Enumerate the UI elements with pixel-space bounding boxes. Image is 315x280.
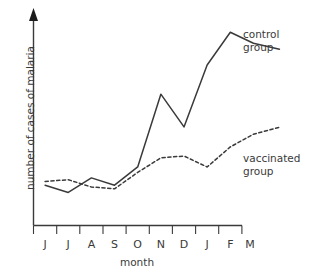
series-label-vaccinated-line1: vaccinated	[243, 152, 300, 165]
series-label-vaccinated-line2: group	[243, 165, 300, 178]
x-tick-label-1: J	[66, 238, 70, 251]
series-label-control-line2: group	[243, 41, 279, 54]
x-tick-label-6: D	[180, 238, 188, 251]
y-axis-title: number of cases of malaria	[24, 46, 36, 190]
x-tick-label-2: A	[88, 238, 96, 251]
series-label-control-group: control group	[243, 28, 279, 53]
x-tick-label-8: F	[227, 238, 233, 251]
x-tick-label-0: J	[42, 238, 46, 251]
x-axis-ticks	[34, 226, 242, 235]
x-tick-label-9: M	[245, 238, 255, 251]
x-tick-label-3: S	[111, 238, 118, 251]
y-axis-arrow-icon	[29, 8, 38, 21]
x-axis-tick-labels: J J A S O N D J F M	[42, 238, 254, 251]
series-label-control-line1: control	[243, 28, 279, 41]
x-tick-label-5: N	[157, 238, 165, 251]
y-axis-title-wrapper: number of cases of malaria	[24, 33, 36, 203]
x-axis-title: month	[120, 256, 154, 268]
series-label-vaccinated-group: vaccinated group	[243, 152, 300, 177]
x-tick-label-7: J	[204, 238, 208, 251]
x-tick-label-4: O	[133, 238, 142, 251]
malaria-line-chart: J J A S O N D J F M month number of case…	[0, 0, 315, 280]
